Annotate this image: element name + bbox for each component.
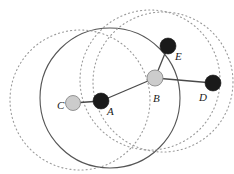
node-label-B: B (153, 93, 160, 104)
diagram-canvas: CABED (0, 0, 234, 174)
node-C[interactable] (66, 96, 81, 111)
edge-B-D (155, 78, 213, 83)
edges-layer (73, 46, 213, 103)
node-label-D: D (199, 92, 207, 103)
edge-A-B (101, 78, 155, 101)
node-label-E: E (175, 51, 182, 62)
range-circles-layer (10, 10, 233, 170)
node-label-C: C (57, 100, 64, 111)
node-D[interactable] (205, 75, 221, 91)
node-E[interactable] (160, 38, 176, 54)
node-label-A: A (107, 106, 114, 117)
node-B[interactable] (147, 70, 163, 86)
nodes-layer (66, 38, 222, 111)
diagram-svg (0, 0, 234, 174)
